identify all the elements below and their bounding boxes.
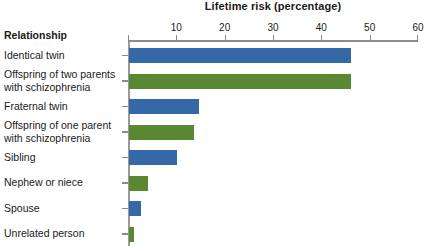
bar xyxy=(129,201,141,216)
lifetime-risk-bar-chart: Lifetime risk (percentage) Relationship … xyxy=(0,0,426,250)
bar-row xyxy=(128,176,418,191)
chart-title: Lifetime risk (percentage) xyxy=(128,0,418,12)
bar xyxy=(129,125,194,140)
x-axis-tick xyxy=(176,35,177,40)
bar xyxy=(129,74,351,89)
bar xyxy=(129,176,148,191)
category-label: Nephew or niece xyxy=(4,176,124,189)
category-label-line: Spouse xyxy=(4,202,40,214)
axis-start-cap xyxy=(128,35,129,42)
category-label-line: Offspring of one parent xyxy=(4,119,111,131)
x-axis-tick xyxy=(273,35,274,40)
category-label: Spouse xyxy=(4,202,124,215)
bar xyxy=(129,48,351,63)
axis-end-cap xyxy=(417,35,418,42)
x-axis-tick xyxy=(225,35,226,40)
plot-area xyxy=(128,42,418,246)
bar xyxy=(129,99,199,114)
x-axis-tick-label: 30 xyxy=(267,22,278,33)
bar xyxy=(129,150,177,165)
x-axis-tick-label: 40 xyxy=(316,22,327,33)
x-axis-tick-label: 50 xyxy=(364,22,375,33)
category-label-line: Unrelated person xyxy=(4,227,85,239)
category-label-line: Offspring of two parents xyxy=(4,68,115,80)
category-label: Unrelated person xyxy=(4,227,124,240)
x-axis-tick xyxy=(370,35,371,40)
x-axis-tick-label: 60 xyxy=(412,22,423,33)
bar-row xyxy=(128,227,418,242)
x-axis-tick-label: 20 xyxy=(219,22,230,33)
bar-row xyxy=(128,201,418,216)
x-axis-tick-label: 10 xyxy=(171,22,182,33)
category-label-line: with schizophrenia xyxy=(4,81,124,94)
category-label: Identical twin xyxy=(4,49,124,62)
category-label-line: Sibling xyxy=(4,151,36,163)
category-label: Offspring of two parentswith schizophren… xyxy=(4,68,124,93)
category-label-line: Fraternal twin xyxy=(4,100,68,112)
category-label-line: Nephew or niece xyxy=(4,176,83,188)
category-label: Fraternal twin xyxy=(4,100,124,113)
category-label-line: Identical twin xyxy=(4,49,65,61)
category-label: Sibling xyxy=(4,151,124,164)
category-label: Offspring of one parentwith schizophreni… xyxy=(4,119,124,144)
bar-row xyxy=(128,74,418,89)
x-axis-tick xyxy=(321,35,322,40)
bar-row xyxy=(128,48,418,63)
bar-row xyxy=(128,125,418,140)
bar xyxy=(129,227,134,242)
bar-row xyxy=(128,150,418,165)
category-label-line: with schizophrenia xyxy=(4,132,124,145)
bar-row xyxy=(128,99,418,114)
category-axis-title: Relationship xyxy=(4,29,67,41)
